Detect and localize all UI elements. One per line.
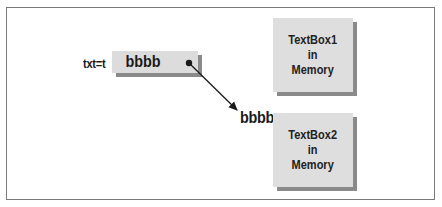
pointer-arrow-icon: [0, 0, 442, 207]
memory-box-line: TextBox1: [289, 33, 338, 48]
memory-box-line: Memory: [289, 63, 338, 78]
memory-box-line: TextBox2: [289, 128, 338, 143]
memory-box-line: in: [289, 143, 338, 158]
memory-box-line: Memory: [289, 158, 338, 173]
memory-box-line: in: [289, 48, 338, 63]
memory-box-textbox1: TextBox1 in Memory: [273, 18, 353, 92]
assigned-value: bbbb: [240, 109, 274, 127]
memory-box-textbox2: TextBox2 in Memory: [273, 113, 353, 187]
